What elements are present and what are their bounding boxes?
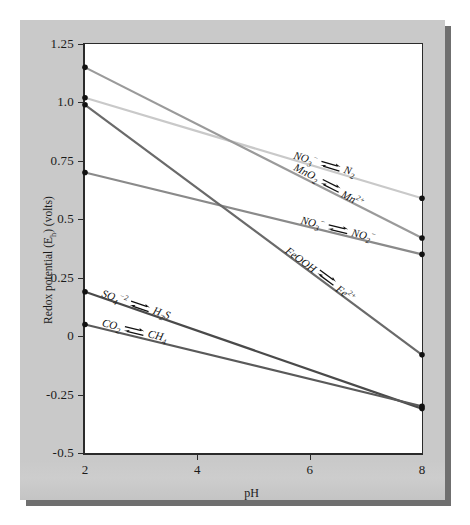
y-tick-mark: [78, 161, 85, 162]
series-line: [85, 324, 422, 406]
y-axis-title-tail: ) (volts): [42, 196, 54, 233]
series-endpoint-dot: [419, 252, 425, 258]
y-tick-mark: [78, 278, 85, 279]
series-endpoint-dot: [82, 170, 88, 176]
series-line: [85, 292, 422, 409]
y-tick-mark: [78, 395, 85, 396]
y-axis-title-sub: h: [49, 233, 58, 237]
x-tick-mark: [197, 453, 198, 460]
y-tick-label: 1.0: [57, 94, 74, 110]
y-tick-mark: [78, 336, 85, 337]
y-tick-label: 1.25: [50, 36, 74, 52]
series-endpoint-dot: [82, 289, 88, 295]
x-tick-mark: [310, 453, 311, 460]
figure-root: Redox potential (Eh) (volts) pH 1.251.00…: [0, 0, 470, 525]
x-tick-label: 2: [82, 462, 89, 478]
series-endpoint-dot: [419, 403, 425, 409]
series-endpoint-dot: [82, 322, 88, 328]
y-tick-mark: [78, 44, 85, 45]
plot-inner: [85, 44, 422, 453]
x-tick-label: 6: [306, 462, 313, 478]
y-tick-mark: [78, 102, 85, 103]
series-line: [85, 98, 422, 198]
x-tick-label: 8: [419, 462, 426, 478]
series-endpoint-dot: [419, 195, 425, 201]
series-endpoint-dot: [419, 235, 425, 241]
x-axis-title: pH: [83, 486, 420, 501]
y-tick-mark: [78, 453, 85, 454]
series-endpoint-dot: [82, 65, 88, 71]
y-tick-label: 0: [67, 328, 74, 344]
figure-panel: Redox potential (Eh) (volts) pH 1.251.00…: [20, 20, 445, 500]
y-tick-label: 0.75: [50, 153, 74, 169]
y-tick-label: -0.25: [46, 387, 74, 403]
y-tick-label: 0.5: [57, 211, 74, 227]
series-endpoint-dot: [419, 352, 425, 358]
x-tick-label: 4: [194, 462, 201, 478]
series-endpoint-dot: [82, 95, 88, 101]
plot-area: 1.251.00.750.50.250-0.25-0.5 2468 NO3−N2…: [83, 43, 423, 455]
y-tick-label: 0.25: [50, 270, 74, 286]
y-tick-label: -0.5: [53, 445, 74, 461]
y-axis-title: Redox potential (Eh) (volts): [42, 196, 57, 324]
series-line: [85, 105, 422, 355]
y-tick-mark: [78, 219, 85, 220]
series-lines: [85, 44, 422, 453]
